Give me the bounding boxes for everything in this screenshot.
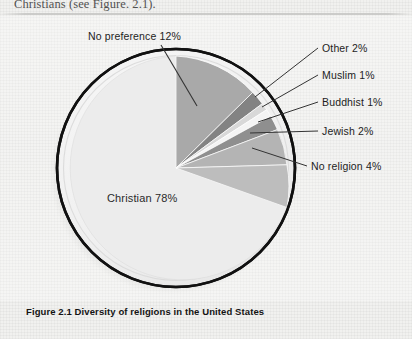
scanned-textbook-page: Christians (see Figure. 2.1). [0,0,412,339]
pie-label-christian: Christian 78% [107,192,177,204]
pie-label-no-religion: No religion 4% [311,160,381,172]
pie-label-muslim: Muslim 1% [322,69,375,81]
leader-line-muslim [262,75,318,107]
pie-label-buddhist: Buddhist 1% [322,96,383,108]
pie-label-other: Other 2% [322,42,368,54]
pie-label-no-preference: No preference 12% [88,30,181,42]
pie-label-jewish: Jewish 2% [322,125,374,137]
figure-caption: Figure 2.1 Diversity of religions in the… [26,306,264,317]
leader-line-other [255,48,318,97]
